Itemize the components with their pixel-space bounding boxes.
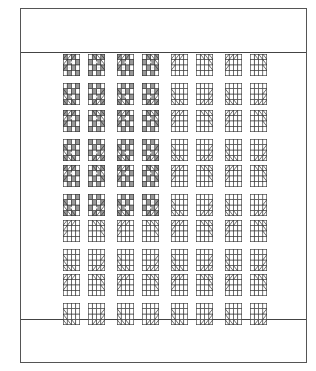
quilt-block (117, 54, 159, 105)
quilt-block (225, 165, 267, 216)
quilt-subblock (63, 139, 80, 161)
quilt-subblock (63, 220, 80, 242)
quilt-subblock (250, 274, 267, 296)
quilt-subblock (196, 139, 213, 161)
quilt-subblock (63, 54, 80, 76)
quilt-subblock (117, 165, 134, 187)
quilt-subblock (117, 249, 134, 271)
quilt-subblock (117, 194, 134, 216)
quilt-subblock (63, 83, 80, 105)
quilt-subblock (88, 165, 105, 187)
quilt-subblock (171, 249, 188, 271)
quilt-subblock (250, 54, 267, 76)
quilt-block (63, 165, 105, 216)
quilt-subblock (88, 220, 105, 242)
quilt-block (117, 220, 159, 271)
quilt-subblock (88, 303, 105, 325)
quilt-subblock (88, 110, 105, 132)
quilt-subblock (171, 165, 188, 187)
quilt-subblock (250, 110, 267, 132)
quilt-subblock (225, 83, 242, 105)
quilt-subblock (117, 220, 134, 242)
quilt-subblock (250, 220, 267, 242)
quilt-block (171, 165, 213, 216)
quilt-subblock (171, 110, 188, 132)
quilt-subblock (63, 110, 80, 132)
quilt-subblock (117, 139, 134, 161)
quilt-subblock (250, 249, 267, 271)
quilt-subblock (88, 83, 105, 105)
quilt-block (225, 110, 267, 161)
quilt-subblock (142, 165, 159, 187)
quilt-subblock (196, 194, 213, 216)
quilt-diagram (20, 8, 307, 363)
quilt-subblock (142, 110, 159, 132)
quilt-subblock (250, 83, 267, 105)
quilt-subblock (117, 274, 134, 296)
quilt-block (63, 54, 105, 105)
quilt-subblock (142, 249, 159, 271)
quilt-subblock (142, 194, 159, 216)
quilt-subblock (63, 303, 80, 325)
quilt-subblock (225, 274, 242, 296)
quilt-subblock (63, 249, 80, 271)
quilt-subblock (196, 165, 213, 187)
quilt-subblock (196, 83, 213, 105)
quilt-subblock (171, 274, 188, 296)
quilt-subblock (142, 54, 159, 76)
quilt-subblock (196, 274, 213, 296)
top-border (21, 9, 306, 53)
quilt-subblock (88, 249, 105, 271)
quilt-subblock (225, 165, 242, 187)
quilt-block (225, 220, 267, 271)
quilt-subblock (88, 274, 105, 296)
quilt-subblock (250, 165, 267, 187)
quilt-subblock (250, 194, 267, 216)
quilt-subblock (117, 110, 134, 132)
quilt-subblock (117, 54, 134, 76)
quilt-subblock (142, 303, 159, 325)
quilt-subblock (225, 194, 242, 216)
quilt-subblock (142, 220, 159, 242)
quilt-block (63, 220, 105, 271)
quilt-subblock (142, 274, 159, 296)
quilt-subblock (196, 249, 213, 271)
quilt-subblock (142, 83, 159, 105)
quilt-subblock (63, 165, 80, 187)
quilt-block (225, 54, 267, 105)
quilt-subblock (142, 139, 159, 161)
quilt-subblock (250, 303, 267, 325)
quilt-subblock (196, 220, 213, 242)
quilt-block (171, 54, 213, 105)
quilt-subblock (225, 249, 242, 271)
quilt-subblock (88, 194, 105, 216)
quilt-block (171, 110, 213, 161)
quilt-subblock (171, 194, 188, 216)
quilt-subblock (171, 303, 188, 325)
quilt-subblock (225, 54, 242, 76)
quilt-block (117, 274, 159, 325)
quilt-subblock (196, 110, 213, 132)
quilt-subblock (63, 274, 80, 296)
quilt-subblock (117, 303, 134, 325)
quilt-subblock (171, 83, 188, 105)
quilt-block (117, 165, 159, 216)
quilt-block (171, 220, 213, 271)
quilt-subblock (225, 139, 242, 161)
quilt-subblock (88, 54, 105, 76)
quilt-block (63, 110, 105, 161)
quilt-subblock (171, 139, 188, 161)
quilt-subblock (225, 110, 242, 132)
quilt-subblock (196, 54, 213, 76)
quilt-subblock (250, 139, 267, 161)
quilt-subblock (225, 220, 242, 242)
quilt-block (117, 110, 159, 161)
quilt-subblock (171, 220, 188, 242)
quilt-block (63, 274, 105, 325)
quilt-subblock (117, 83, 134, 105)
quilt-block (225, 274, 267, 325)
quilt-subblock (63, 194, 80, 216)
quilt-block (171, 274, 213, 325)
quilt-subblock (171, 54, 188, 76)
quilt-subblock (88, 139, 105, 161)
